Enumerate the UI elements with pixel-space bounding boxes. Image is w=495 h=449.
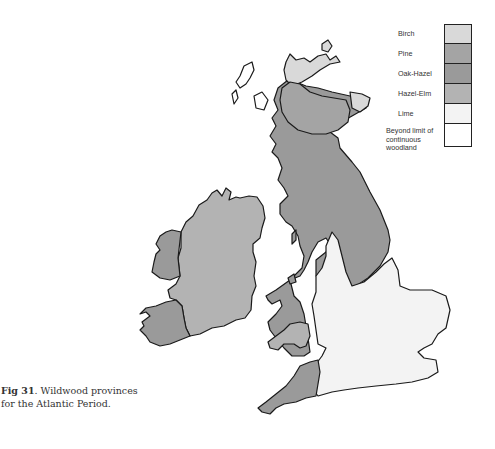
region-isle-of-man: [292, 230, 296, 244]
legend-swatch-hazel-elm: [444, 84, 472, 104]
region-southwest-ireland-oak-hazel: [140, 300, 190, 346]
legend-item-beyond-limit: Beyond limit of continuous woodland: [378, 124, 478, 144]
legend-swatch-lime: [444, 104, 472, 124]
region-anglesey: [288, 274, 296, 284]
legend-item-birch: Birch: [378, 24, 478, 44]
legend-item-lime: Lime: [378, 104, 478, 124]
map-legend: Birch Pine Oak-Hazel Hazel-Elm Lime Beyo…: [378, 24, 478, 144]
region-orkney: [322, 40, 332, 52]
legend-swatch-pine: [444, 44, 472, 64]
region-inner-island: [254, 92, 268, 110]
region-outer-hebrides-south: [232, 90, 238, 104]
legend-item-pine: Pine: [378, 44, 478, 64]
figure-caption: Fig 31. Wildwood provincesfor the Atlant…: [1, 384, 138, 410]
region-west-ireland-oak-hazel: [152, 230, 181, 280]
legend-item-oak-hazel: Oak-Hazel: [378, 64, 478, 84]
legend-swatch-beyond-limit: [444, 124, 472, 147]
legend-item-hazel-elm: Hazel-Elm: [378, 84, 478, 104]
region-north-scotland-birch: [284, 54, 340, 86]
legend-label: Beyond limit of continuous woodland: [386, 127, 452, 153]
figure-label: Fig 31: [1, 385, 35, 396]
region-east-scotland-birch: [350, 92, 370, 112]
legend-swatch-oak-hazel: [444, 64, 472, 84]
legend-swatch-birch: [444, 24, 472, 44]
region-southwest-peninsula-oak-hazel: [258, 360, 320, 414]
region-outer-hebrides: [236, 62, 254, 88]
